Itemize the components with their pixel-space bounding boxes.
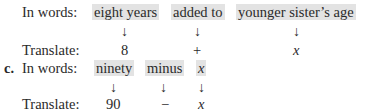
translation-x: x bbox=[198, 96, 204, 112]
translation-90: 90 bbox=[106, 96, 121, 112]
in-words-label: In words: bbox=[22, 4, 77, 20]
item-label-c: c. bbox=[4, 60, 14, 76]
down-arrow-icon: ↓ bbox=[198, 81, 205, 95]
translation-plus: + bbox=[193, 42, 201, 58]
translation-x: x bbox=[293, 42, 299, 58]
down-arrow-icon: ↓ bbox=[160, 81, 167, 95]
phrase-minus: minus bbox=[145, 60, 184, 76]
phrase-added-to: added to bbox=[171, 4, 225, 20]
phrase-younger-sisters-age: younger sister’s age bbox=[236, 4, 356, 20]
phrase-ninety: ninety bbox=[94, 60, 134, 76]
translation-minus: − bbox=[161, 96, 169, 112]
translation-8: 8 bbox=[121, 42, 128, 58]
translate-label: Translate: bbox=[22, 96, 79, 112]
translate-label: Translate: bbox=[22, 42, 79, 58]
down-arrow-icon: ↓ bbox=[293, 25, 300, 39]
down-arrow-icon: ↓ bbox=[194, 25, 201, 39]
down-arrow-icon: ↓ bbox=[110, 81, 117, 95]
down-arrow-icon: ↓ bbox=[121, 25, 128, 39]
phrase-eight-years: eight years bbox=[92, 4, 159, 20]
phrase-x: x bbox=[196, 60, 206, 76]
in-words-label: In words: bbox=[22, 60, 77, 76]
